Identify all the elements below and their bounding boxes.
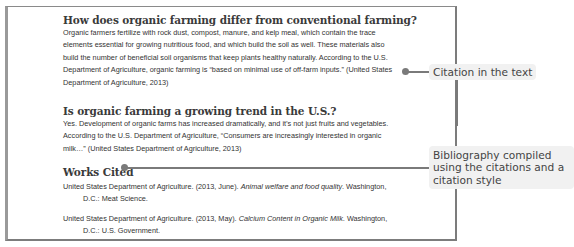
citation-title: Animal welfare and food quality (241, 182, 342, 191)
paragraph-line: build the number of beneficial soil orga… (63, 52, 392, 64)
section-heading-1: How does organic farming differ from con… (63, 14, 417, 26)
works-cited-entry-2: United States Department of Agriculture.… (63, 213, 387, 238)
paragraph-line: elements essential for growing nutritiou… (63, 39, 392, 51)
callout-bibliography: Bibliography compiled using the citation… (429, 146, 574, 189)
citation-author-date: United States Department of Agriculture.… (63, 182, 241, 191)
citation-first-line: United States Department of Agriculture.… (63, 181, 386, 193)
works-cited-entry-1: United States Department of Agriculture.… (63, 181, 386, 206)
citation-location: . Washington, (343, 214, 387, 223)
section-paragraph-1: Organic farmers fertilize with rock dust… (63, 27, 392, 89)
document-right-edge (456, 80, 458, 126)
section-heading-2: Is organic farming a growing trend in th… (63, 105, 336, 117)
citation-publisher: D.C.: Meat Science. (63, 193, 386, 205)
callout-citation-in-text: Citation in the text (429, 64, 536, 80)
paragraph-line: Organic farmers fertilize with rock dust… (63, 27, 392, 39)
citation-author-date: United States Department of Agriculture.… (63, 214, 239, 223)
bibliography-connector-line (126, 167, 429, 169)
callout-label-line: Bibliography compiled (433, 149, 564, 161)
paragraph-line: Department of Agriculture, 2013) (63, 77, 392, 89)
citation-location: . Washington, (342, 182, 386, 191)
paragraph-line: Yes. Development of organic farms has in… (63, 118, 388, 130)
paragraph-line: milk…” (United States Department of Agri… (63, 143, 388, 155)
document-page: How does organic farming differ from con… (5, 6, 457, 241)
section-paragraph-2: Yes. Development of organic farms has in… (63, 118, 388, 155)
citation-first-line: United States Department of Agriculture.… (63, 213, 387, 225)
callout-label: Citation in the text (433, 66, 532, 78)
callout-label-line: using the citations and a (433, 161, 564, 173)
citation-publisher: D.C.: U.S. Government. (63, 225, 387, 237)
citation-title: Calcium Content in Organic Milk (239, 214, 343, 223)
in-text-citation-line: Department of Agriculture, organic farmi… (63, 64, 392, 76)
paragraph-line: According to the U.S. Department of Agri… (63, 130, 388, 142)
callout-label-line: citation style (433, 174, 564, 186)
